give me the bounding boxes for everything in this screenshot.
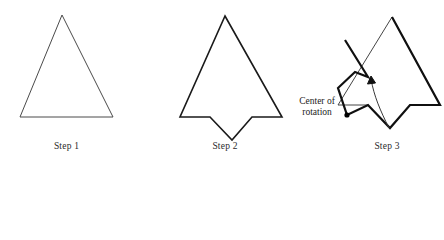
step2-label: Step 2 xyxy=(150,141,300,151)
step3-label: Step 3 xyxy=(330,141,444,151)
center-of-rotation-label: Center of rotation xyxy=(286,96,348,118)
step1-label: Step 1 xyxy=(0,141,133,151)
